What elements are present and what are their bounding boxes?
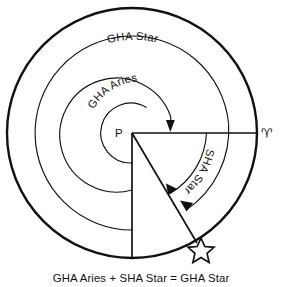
sha-star-label: SHA Star [182,148,217,197]
gha-star-label: GHA Star [106,30,160,46]
pole-label: P [115,127,123,139]
gha-aries-arrowhead [166,120,175,132]
diagram-canvas: P ♈ GHA Star GHA Aries SHA Star [0,0,282,287]
aries-symbol-icon: ♈ [261,126,273,141]
gha-aries-label: GHA Aries [85,71,138,110]
diagram-caption: GHA Aries + SHA Star = GHA Star [0,272,282,284]
celestial-sphere-diagram: P ♈ GHA Star GHA Aries SHA Star GHA Arie… [0,0,282,287]
